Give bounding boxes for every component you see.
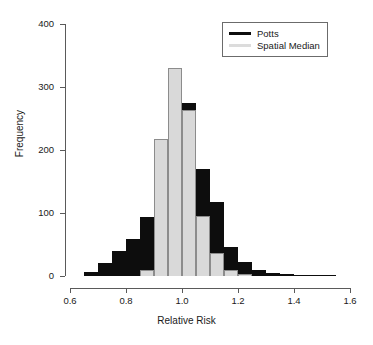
y-tick-mark [60,276,65,277]
x-tick-mark [182,288,183,293]
x-tick-label: 1.2 [218,296,258,306]
legend-swatch-potts [229,32,251,35]
legend-label: Spatial Median [257,40,320,51]
y-tick-mark [60,87,65,88]
x-tick-label: 1.4 [274,296,314,306]
y-tick-label: 300 [0,82,54,92]
x-tick-mark [294,288,295,293]
y-tick-mark [60,213,65,214]
histogram-chart: 0100200300400 Frequency 0.60.81.01.21.41… [0,0,373,345]
x-tick-mark [238,288,239,293]
legend-swatch-spatial [229,44,251,47]
series-spatial-median-bars [70,24,350,276]
legend-entry: Potts [229,27,320,39]
plot-area [70,24,350,276]
x-tick-label: 0.6 [50,296,90,306]
legend: PottsSpatial Median [222,22,328,57]
y-tick-label: 0 [0,271,54,281]
histogram-bar [224,270,238,276]
y-tick-label: 200 [0,145,54,155]
x-tick-mark [70,288,71,293]
x-tick-label: 1.6 [330,296,370,306]
legend-label: Potts [257,28,279,39]
histogram-bar [196,216,210,276]
histogram-bar [168,68,182,276]
y-tick-mark [60,150,65,151]
histogram-bar [154,139,168,276]
y-tick-mark [60,24,65,25]
x-tick-label: 1.0 [162,296,202,306]
x-axis-title: Relative Risk [0,315,373,326]
legend-entry: Spatial Median [229,39,320,51]
x-tick-mark [350,288,351,293]
x-tick-label: 0.8 [106,296,146,306]
histogram-bar [210,253,224,276]
y-axis-line [65,24,66,276]
x-axis-line [70,288,350,289]
y-axis-title: Frequency [14,79,25,189]
histogram-bar [238,274,252,276]
histogram-bar [182,110,196,276]
y-tick-label: 100 [0,208,54,218]
histogram-bar [140,270,154,276]
x-tick-mark [126,288,127,293]
y-tick-label: 400 [0,19,54,29]
